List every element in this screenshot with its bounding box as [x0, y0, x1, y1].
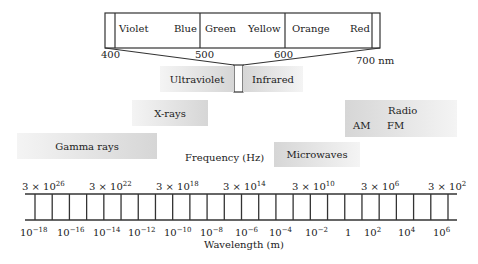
frequency-tick-label: 3 × 1018 [156, 182, 199, 192]
color-violet: Violet [119, 24, 148, 34]
band-microwaves-label: Microwaves [286, 149, 347, 160]
band-infrared-label: Infrared [252, 74, 294, 85]
band-ultraviolet-label: Ultraviolet [170, 74, 224, 85]
color-yellow: Yellow [248, 24, 281, 34]
color-orange: Orange [292, 24, 330, 34]
tick-600nm: 600 [274, 50, 293, 60]
wavelength-tick-label: 10−10 [164, 228, 192, 238]
frequency-tick-label: 3 × 1022 [89, 182, 132, 192]
band-infrared: Infrared [243, 66, 303, 92]
band-gamma-label: Gamma rays [55, 141, 119, 152]
color-green: Green [205, 24, 236, 34]
frequency-tick-label: 3 × 1010 [292, 182, 335, 192]
tick-700nm: 700 nm [356, 56, 394, 66]
color-red: Red [350, 24, 370, 34]
band-xrays: X-rays [132, 100, 208, 126]
band-ultraviolet: Ultraviolet [160, 66, 234, 92]
band-xrays-label: X-rays [154, 108, 186, 119]
tick-400nm: 400 [101, 50, 120, 60]
wavelength-tick-label: 10−2 [305, 228, 328, 238]
wavelength-tick-label: 10−16 [57, 228, 85, 238]
frequency-tick-label: 3 × 106 [361, 182, 399, 192]
wavelength-tick-label: 10−4 [269, 228, 292, 238]
wavelength-tick-label: 10−18 [20, 228, 48, 238]
wavelength-tick-label: 1 [345, 228, 351, 238]
wavelength-tick-label: 102 [364, 228, 381, 238]
wavelength-tick-label: 10−14 [93, 228, 121, 238]
wavelength-tick-label: 10−8 [200, 228, 223, 238]
band-radio: Radio AM FM [345, 100, 457, 137]
wavelength-tick-label: 106 [433, 228, 450, 238]
wavelength-axis-label: Wavelength (m) [204, 240, 284, 250]
wavelength-tick-label: 10−12 [128, 228, 156, 238]
frequency-tick-label: 3 × 1014 [223, 182, 266, 192]
band-radio-am: AM [353, 121, 370, 131]
band-microwaves: Microwaves [274, 142, 360, 167]
frequency-tick-label: 3 × 1026 [22, 182, 65, 192]
band-radio-fm: FM [387, 121, 404, 131]
frequency-tick-label: 3 × 102 [428, 182, 466, 192]
band-radio-label: Radio [388, 106, 417, 116]
tick-500nm: 500 [195, 50, 214, 60]
band-gamma: Gamma rays [17, 133, 157, 159]
frequency-axis-label: Frequency (Hz) [185, 153, 264, 163]
wavelength-tick-label: 10−6 [235, 228, 258, 238]
wavelength-tick-label: 104 [398, 228, 415, 238]
color-blue: Blue [174, 24, 197, 34]
